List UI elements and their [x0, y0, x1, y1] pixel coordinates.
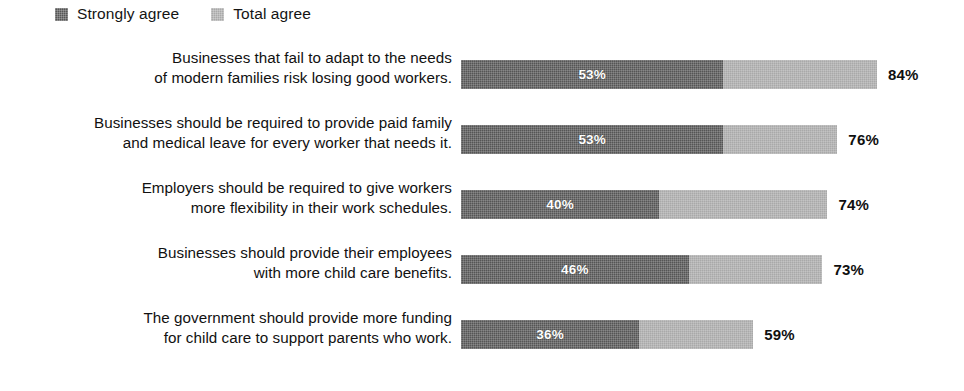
- bar-chart-rows: Businesses that fail to adapt to the nee…: [0, 48, 964, 373]
- chart-row: Businesses should be required to provide…: [0, 113, 964, 178]
- bar-segment-total-agree[interactable]: [723, 125, 837, 154]
- chart-row-label-line: with more child care benefits.: [22, 263, 452, 283]
- chart-row-label: The government should provide more fundi…: [22, 308, 452, 347]
- chart-row-label-line: Employers should be required to give wor…: [22, 178, 452, 198]
- chart-row-label-line: and medical leave for every worker that …: [22, 133, 452, 153]
- chart-row-label-line: Businesses should provide their employee…: [22, 243, 452, 263]
- chart-row-label-line: Businesses that fail to adapt to the nee…: [22, 48, 452, 68]
- bar-segment-value-label: 40%: [546, 197, 574, 212]
- square-swatch-icon: [55, 8, 68, 21]
- bar-total-value-label: 73%: [833, 261, 864, 278]
- square-swatch-icon: [211, 8, 224, 21]
- bar-segment-total-agree[interactable]: [639, 320, 753, 349]
- legend-label-strongly-agree: Strongly agree: [77, 6, 179, 22]
- legend-item-strongly-agree: Strongly agree: [55, 6, 179, 22]
- bar-total-value-label: 59%: [764, 326, 795, 343]
- chart-row-label-line: of modern families risk losing good work…: [22, 68, 452, 88]
- chart-legend: Strongly agree Total agree: [55, 4, 343, 24]
- chart-bar-wrap: 46%73%: [461, 255, 864, 284]
- stacked-bar[interactable]: 53%: [461, 125, 837, 154]
- bar-segment-total-agree[interactable]: [723, 60, 877, 89]
- bar-segment-strongly-agree[interactable]: 40%: [461, 190, 659, 219]
- chart-bar-wrap: 53%76%: [461, 125, 879, 154]
- chart-row: Businesses that fail to adapt to the nee…: [0, 48, 964, 113]
- chart-row-label: Businesses should provide their employee…: [22, 243, 452, 282]
- legend-label-total-agree: Total agree: [233, 6, 311, 22]
- chart-row-label-line: Businesses should be required to provide…: [22, 113, 452, 133]
- stacked-bar[interactable]: 46%: [461, 255, 822, 284]
- chart-row-label-line: more flexibility in their work schedules…: [22, 198, 452, 218]
- bar-segment-value-label: 46%: [561, 262, 589, 277]
- bar-segment-strongly-agree[interactable]: 53%: [461, 60, 723, 89]
- bar-segment-strongly-agree[interactable]: 46%: [461, 255, 689, 284]
- chart-row: Businesses should provide their employee…: [0, 243, 964, 308]
- chart-row-label: Employers should be required to give wor…: [22, 178, 452, 217]
- chart-row-label-line: for child care to support parents who wo…: [22, 328, 452, 348]
- bar-total-value-label: 74%: [838, 196, 869, 213]
- bar-segment-total-agree[interactable]: [659, 190, 827, 219]
- bar-segment-value-label: 36%: [536, 327, 564, 342]
- bar-total-value-label: 84%: [888, 66, 919, 83]
- chart-bar-wrap: 53%84%: [461, 60, 919, 89]
- bar-segment-strongly-agree[interactable]: 53%: [461, 125, 723, 154]
- bar-segment-strongly-agree[interactable]: 36%: [461, 320, 639, 349]
- bar-total-value-label: 76%: [848, 131, 879, 148]
- legend-item-total-agree: Total agree: [211, 6, 311, 22]
- bar-segment-value-label: 53%: [578, 132, 606, 147]
- stacked-bar[interactable]: 53%: [461, 60, 877, 89]
- bar-segment-value-label: 53%: [578, 67, 606, 82]
- stacked-bar[interactable]: 40%: [461, 190, 827, 219]
- bar-segment-total-agree[interactable]: [689, 255, 823, 284]
- chart-bar-wrap: 36%59%: [461, 320, 795, 349]
- stacked-bar[interactable]: 36%: [461, 320, 753, 349]
- chart-row: Employers should be required to give wor…: [0, 178, 964, 243]
- chart-row: The government should provide more fundi…: [0, 308, 964, 373]
- chart-bar-wrap: 40%74%: [461, 190, 869, 219]
- chart-row-label: Businesses that fail to adapt to the nee…: [22, 48, 452, 87]
- chart-row-label-line: The government should provide more fundi…: [22, 308, 452, 328]
- chart-row-label: Businesses should be required to provide…: [22, 113, 452, 152]
